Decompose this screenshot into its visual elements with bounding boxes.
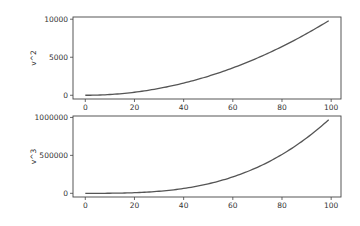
- x-tick-label: 0: [83, 201, 88, 210]
- x-tick-label: 60: [228, 103, 238, 112]
- subplot-2: 02040608010005000001000000v^3: [29, 113, 341, 210]
- x-tick-label: 40: [179, 103, 189, 112]
- x-tick-label: 80: [277, 201, 287, 210]
- x-tick-label: 100: [324, 103, 339, 112]
- axes-frame: [73, 17, 341, 99]
- y-tick-label: 5000: [49, 53, 68, 62]
- x-tick-label: 60: [228, 201, 238, 210]
- x-tick-label: 0: [83, 103, 88, 112]
- y-tick-label: 1000000: [35, 113, 69, 122]
- y-tick-label: 0: [63, 91, 68, 100]
- y-tick-label: 500000: [39, 151, 68, 160]
- y-axis-label: v^3: [29, 149, 38, 165]
- series-line: [85, 21, 328, 96]
- y-axis-label: v^2: [29, 50, 38, 66]
- subplot-1: 0204060801000500010000v^2: [29, 15, 341, 112]
- x-tick-label: 20: [130, 201, 140, 210]
- x-tick-label: 40: [179, 201, 189, 210]
- x-tick-label: 80: [277, 103, 287, 112]
- figure: 0204060801000500010000v^2020406080100050…: [0, 0, 360, 226]
- y-tick-label: 10000: [44, 15, 68, 24]
- y-tick-label: 0: [63, 189, 68, 198]
- series-line: [85, 120, 328, 194]
- axes-frame: [73, 116, 341, 197]
- x-tick-label: 100: [324, 201, 339, 210]
- x-tick-label: 20: [130, 103, 140, 112]
